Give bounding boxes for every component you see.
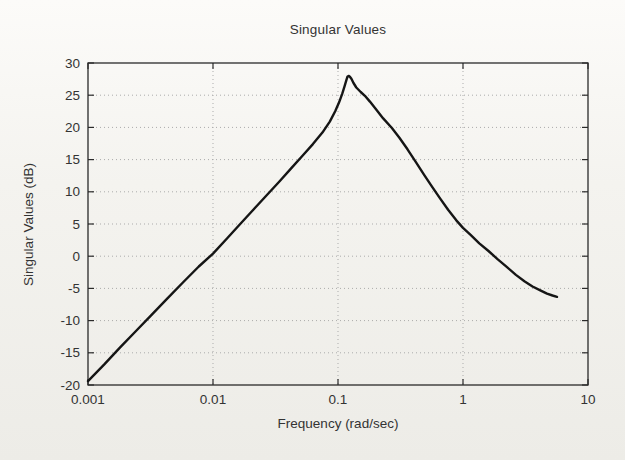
y-tick-label: 10 bbox=[65, 184, 80, 199]
y-tick-label: 20 bbox=[65, 120, 80, 135]
y-tick-label: 5 bbox=[72, 217, 80, 232]
y-tick-label: -15 bbox=[60, 345, 80, 360]
y-tick-label: -10 bbox=[60, 313, 80, 328]
y-axis-label: Singular Values (dB) bbox=[21, 125, 36, 325]
x-tick-label: 1 bbox=[459, 392, 467, 407]
figure-page: Singular Values 302520151050-5-10-15-200… bbox=[0, 0, 625, 460]
x-tick-label: 0.1 bbox=[329, 392, 348, 407]
y-tick-label: -20 bbox=[60, 378, 80, 393]
x-tick-label: 0.01 bbox=[200, 392, 226, 407]
singular-values-plot: 302520151050-5-10-15-200.0010.010.1110 bbox=[0, 0, 625, 460]
x-tick-label: 0.001 bbox=[71, 392, 105, 407]
y-tick-label: 25 bbox=[65, 88, 80, 103]
y-tick-label: 15 bbox=[65, 152, 80, 167]
y-tick-label: 0 bbox=[72, 249, 80, 264]
x-tick-label: 10 bbox=[580, 392, 595, 407]
y-tick-label: 30 bbox=[65, 56, 80, 71]
y-tick-label: -5 bbox=[68, 281, 80, 296]
x-axis-label: Frequency (rad/sec) bbox=[88, 416, 588, 431]
singular-value-curve bbox=[88, 76, 557, 381]
